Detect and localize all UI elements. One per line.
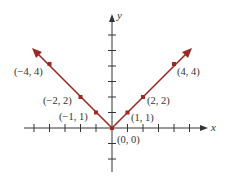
point-2-2: [141, 95, 145, 99]
label-1-1: (1, 1): [131, 112, 154, 124]
point-1-1: [126, 111, 130, 115]
x-axis-label: x: [210, 121, 216, 133]
point-labels: (−4, 4) (−2, 2) (−1, 1) (0, 0) (1, 1) (2…: [14, 66, 200, 146]
label-neg2-2: (−2, 2): [43, 95, 72, 107]
absolute-value-graph: x y (−4, 4) (−2, 2) (−1, 1) (0,: [0, 0, 226, 179]
label-neg4-4: (−4, 4): [14, 66, 43, 78]
point-neg1-1: [94, 111, 98, 115]
point-neg2-2: [79, 95, 83, 99]
y-axis-label: y: [116, 9, 122, 21]
y-axis-arrow-icon: [109, 14, 115, 22]
label-origin: (0, 0): [117, 134, 140, 146]
point-4-4: [172, 62, 176, 66]
y-axis: [108, 20, 116, 172]
label-4-4: (4, 4): [177, 66, 200, 78]
label-2-2: (2, 2): [147, 95, 170, 107]
x-axis-arrow-icon: [200, 125, 208, 131]
point-neg4-4: [48, 62, 52, 66]
label-neg1-1: (−1, 1): [59, 111, 88, 123]
point-origin: [110, 126, 114, 130]
